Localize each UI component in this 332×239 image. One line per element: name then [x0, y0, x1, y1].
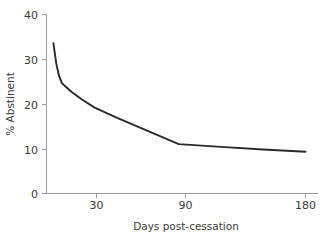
x-tick-label-90: 90 [179, 199, 193, 212]
y-tick-label-40: 40 [24, 9, 38, 22]
abstinence-decay-line-chart: 40 30 20 10 0 30 90 180 Days post-cessat… [0, 0, 332, 239]
y-tick-label-20: 20 [24, 99, 38, 112]
y-tick-label-30: 30 [24, 54, 38, 67]
y-axis-title: % Abstinent [4, 72, 16, 136]
x-axis-title: Days post-cessation [133, 220, 239, 232]
abstinence-curve [53, 43, 305, 152]
chart-figure: 40 30 20 10 0 30 90 180 Days post-cessat… [0, 0, 332, 239]
x-tick-label-30: 30 [90, 199, 104, 212]
y-tick-label-0: 0 [31, 188, 38, 201]
y-tick-label-10: 10 [24, 144, 38, 157]
x-tick-label-180: 180 [295, 199, 316, 212]
